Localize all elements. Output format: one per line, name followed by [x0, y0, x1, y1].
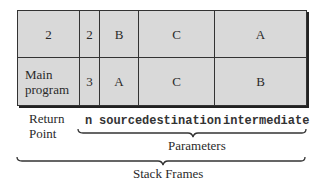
- brace-lines: [0, 0, 323, 184]
- parameters-label: Parameters: [168, 138, 226, 154]
- stack-frames-label: Stack Frames: [133, 166, 203, 182]
